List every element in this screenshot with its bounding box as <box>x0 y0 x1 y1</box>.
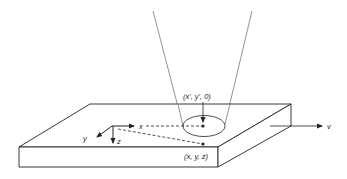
x-axis-label: x <box>138 122 143 131</box>
diagram-canvas: (x', y', 0) (x, y, z) x y z v <box>0 0 347 179</box>
velocity-label: v <box>327 122 332 131</box>
subsurface-point <box>201 142 204 145</box>
surface-point-label: (x', y', 0) <box>183 92 211 101</box>
surface-point <box>201 124 204 127</box>
subsurface-point-label: (x, y, z) <box>184 152 209 161</box>
z-axis-label: z <box>116 137 121 146</box>
